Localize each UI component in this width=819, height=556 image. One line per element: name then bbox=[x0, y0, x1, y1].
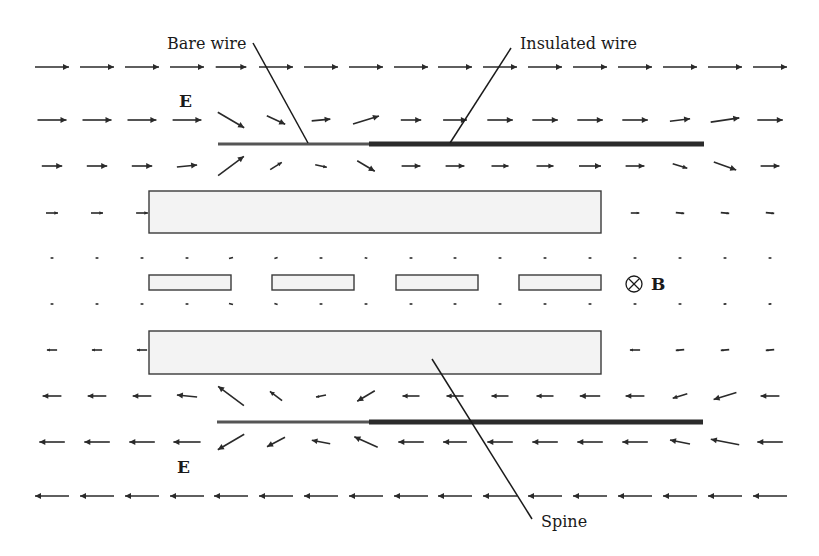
field-vector-arrow bbox=[708, 64, 742, 70]
field-vector-arrow bbox=[125, 64, 159, 70]
field-vector-arrow bbox=[357, 161, 375, 171]
field-vector-arrow bbox=[270, 391, 282, 400]
field-vector-arrow bbox=[83, 117, 112, 123]
field-vector-arrow bbox=[125, 493, 159, 499]
field-vector-arrow bbox=[663, 64, 697, 70]
field-vector-arrow bbox=[173, 117, 202, 123]
field-vector-arrow bbox=[532, 439, 558, 445]
field-vector-arrow bbox=[532, 117, 558, 123]
field-vector-arrow bbox=[88, 393, 107, 399]
field-vector-arrow bbox=[673, 164, 688, 169]
field-vector-arrow bbox=[483, 493, 517, 499]
field-vector-arrow bbox=[492, 393, 509, 398]
field-vector-arrow bbox=[270, 162, 282, 169]
field-vector-arrow bbox=[577, 439, 603, 445]
field-vector-arrow bbox=[394, 493, 428, 499]
field-vector-arrow bbox=[218, 434, 244, 450]
field-vector-arrow bbox=[46, 211, 58, 215]
field-vector-arrow bbox=[446, 163, 465, 169]
field-vector-arrow bbox=[402, 163, 421, 169]
field-vector-arrow bbox=[714, 162, 736, 171]
field-vector-arrow bbox=[398, 439, 424, 445]
field-vector-arrow bbox=[38, 117, 67, 123]
insulated-wire-leader-line bbox=[450, 48, 511, 143]
field-vector-arrow bbox=[132, 163, 152, 169]
field-vector-arrow bbox=[577, 117, 603, 123]
field-vector-arrow bbox=[129, 439, 155, 445]
field-vector-arrow bbox=[757, 439, 783, 445]
b-field-into-page-icon bbox=[626, 276, 642, 292]
field-vector-arrow bbox=[349, 493, 383, 499]
field-vector-arrow bbox=[259, 493, 293, 499]
vertebra-block-2 bbox=[272, 275, 354, 290]
field-vector-arrow bbox=[218, 112, 244, 128]
field-vector-arrow bbox=[528, 493, 562, 499]
field-vector-arrow bbox=[670, 438, 690, 444]
field-vector-arrow bbox=[492, 163, 509, 168]
lower-spine-block bbox=[149, 331, 601, 374]
field-vector-arrow bbox=[259, 64, 293, 70]
field-vector-arrow bbox=[80, 493, 114, 499]
field-vector-arrow bbox=[80, 64, 114, 70]
field-vector-arrow bbox=[714, 393, 737, 401]
field-vector-arrow bbox=[573, 493, 607, 499]
field-vector-arrow bbox=[136, 211, 148, 215]
field-vector-arrow bbox=[438, 493, 472, 499]
field-vector-arrow bbox=[312, 117, 331, 123]
field-vector-arrow bbox=[218, 386, 244, 405]
field-vector-arrow bbox=[573, 64, 607, 70]
field-vector-arrow bbox=[173, 439, 200, 445]
field-vector-arrow bbox=[39, 439, 65, 445]
field-vector-arrow bbox=[761, 163, 780, 169]
upper-spine-block bbox=[149, 191, 601, 233]
field-vector-arrow bbox=[91, 211, 103, 215]
field-vector-arrow bbox=[357, 391, 375, 401]
spine-label: Spine bbox=[541, 512, 587, 531]
field-vector-arrow bbox=[721, 212, 729, 215]
bare-wire-label: Bare wire bbox=[167, 34, 246, 53]
field-vector-arrow bbox=[537, 163, 554, 168]
bare-wire-leader-line bbox=[253, 43, 308, 143]
field-vector-arrow bbox=[766, 212, 774, 215]
field-vector-arrow bbox=[487, 439, 513, 445]
field-vector-arrow bbox=[631, 212, 640, 215]
field-vector-arrow bbox=[761, 393, 780, 399]
field-vector-arrow bbox=[438, 64, 472, 70]
field-vector-arrow bbox=[316, 395, 326, 398]
field-vector-arrow bbox=[274, 258, 277, 259]
field-vector-arrow bbox=[673, 394, 688, 399]
field-vector-arrow bbox=[267, 437, 285, 447]
field-vector-arrow bbox=[170, 64, 204, 70]
field-vector-arrow bbox=[394, 64, 428, 70]
field-vector-arrow bbox=[92, 349, 102, 352]
field-vector-arrow bbox=[177, 163, 197, 169]
field-vector-arrow bbox=[43, 393, 62, 399]
field-vector-arrow bbox=[579, 163, 601, 169]
b-field-label: B bbox=[651, 274, 665, 294]
field-vector-arrow bbox=[133, 393, 152, 399]
field-vector-arrow bbox=[304, 493, 338, 499]
field-vector-arrow bbox=[87, 163, 107, 169]
field-vector-arrow bbox=[663, 493, 697, 499]
field-vector-arrow bbox=[443, 439, 467, 445]
field-diagram: Bare wire Insulated wire E E Spine B bbox=[0, 0, 819, 556]
field-vector-arrow bbox=[229, 257, 233, 258]
spine-leader-line bbox=[432, 359, 532, 519]
field-vector-arrow bbox=[711, 116, 740, 122]
field-vector-arrow bbox=[218, 156, 244, 175]
vertebra-block-3 bbox=[396, 275, 478, 290]
field-vector-arrow bbox=[304, 64, 338, 70]
vertebra-block-4 bbox=[519, 275, 601, 290]
field-vector-arrow bbox=[721, 349, 729, 352]
field-vector-arrow bbox=[670, 117, 690, 123]
field-vector-arrow bbox=[487, 117, 513, 123]
field-vector-arrow bbox=[618, 493, 652, 499]
field-vector-arrow bbox=[137, 349, 147, 352]
field-vector-arrow bbox=[267, 116, 285, 125]
field-vector-arrow bbox=[622, 117, 648, 123]
field-vector-arrow bbox=[622, 439, 648, 445]
field-vector-arrow bbox=[214, 493, 248, 499]
field-vector-arrow bbox=[401, 117, 421, 123]
field-vector-arrow bbox=[353, 115, 379, 124]
field-vector-arrow bbox=[626, 393, 645, 399]
